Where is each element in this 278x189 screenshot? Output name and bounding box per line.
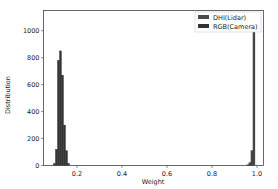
- histogram-bar: [249, 163, 251, 166]
- y-axis-ticks: 02004006008001000: [23, 27, 44, 170]
- histogram-bar: [59, 51, 61, 166]
- legend-label-rgb: RGB(Camera): [213, 23, 258, 31]
- histogram-bar: [55, 149, 57, 165]
- y-tick-label: 800: [27, 54, 39, 62]
- histogram-bar: [57, 60, 59, 165]
- histogram-bar: [61, 75, 63, 165]
- histogram-chart: 0.20.40.60.81.0 02004006008001000 Weight…: [0, 0, 278, 189]
- y-tick-label: 400: [27, 108, 39, 116]
- plot-frame: [44, 11, 264, 166]
- x-tick-label: 0.6: [162, 170, 172, 178]
- legend-swatch-dhi: [198, 15, 209, 19]
- x-tick-label: 1.0: [252, 170, 262, 178]
- histogram-bar: [251, 151, 253, 166]
- histogram-bar: [66, 151, 68, 166]
- y-axis-label: Distribution: [4, 76, 12, 114]
- y-tick-label: 600: [27, 81, 39, 89]
- x-tick-label: 0.4: [117, 170, 127, 178]
- y-tick-label: 0: [35, 162, 39, 170]
- histogram-bar: [253, 31, 255, 166]
- x-axis-ticks: 0.20.40.60.81.0: [72, 166, 262, 178]
- x-axis-label: Weight: [142, 178, 165, 186]
- histogram-bars: [53, 31, 255, 166]
- legend-swatch-rgb: [198, 24, 209, 28]
- y-tick-label: 1000: [23, 27, 40, 35]
- histogram-bar: [64, 125, 66, 165]
- legend-label-dhi: DHI(Lidar): [213, 14, 246, 22]
- legend: DHI(Lidar) RGB(Camera): [195, 12, 261, 32]
- y-tick-label: 200: [27, 135, 39, 143]
- x-tick-label: 0.8: [207, 170, 217, 178]
- x-tick-label: 0.2: [72, 170, 82, 178]
